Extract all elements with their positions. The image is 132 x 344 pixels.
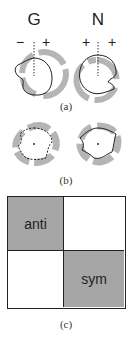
grid-cell-bottom-left <box>8 251 64 307</box>
n-shape-diagram <box>77 42 117 100</box>
b-right-shape <box>80 126 118 162</box>
grid-cell-top-right <box>64 197 124 251</box>
grid-cell-anti: anti <box>8 197 64 251</box>
caption-b: (b) <box>46 174 86 186</box>
panel-c-grid: anti sym <box>7 196 126 309</box>
grid-cell-sym: sym <box>64 251 124 307</box>
caption-a: (a) <box>46 100 86 112</box>
g-shape-diagram <box>15 42 66 96</box>
caption-c: (c) <box>46 318 86 330</box>
b-left-shape <box>16 126 57 163</box>
